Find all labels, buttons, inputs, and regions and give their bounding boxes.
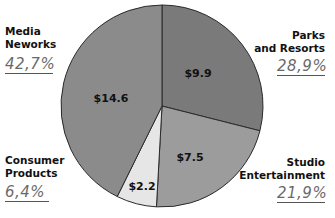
slice-value-studio: $7.5: [176, 151, 203, 164]
pct-studio-entertainment: 21,9%: [277, 185, 325, 203]
label-parks-resorts: Parks and Resorts: [254, 29, 325, 55]
label-media-line2: Neworks: [5, 38, 56, 51]
slice-value-consumer: $2.2: [128, 180, 155, 193]
label-consumer-products: Consumer Products: [5, 154, 64, 180]
pct-consumer-products: 6,4%: [5, 184, 49, 202]
label-media-line1: Media: [5, 25, 56, 38]
slice-value-media: $14.6: [94, 92, 129, 105]
label-consumer-line1: Consumer: [5, 154, 64, 167]
label-studio-line2: Entertainment: [239, 169, 325, 182]
label-studio-entertainment: Studio Entertainment: [239, 156, 325, 182]
pct-parks-resorts: 28,9%: [277, 58, 325, 76]
slice-value-parks: $9.9: [184, 67, 211, 80]
pie-slices: [61, 5, 263, 207]
label-media-networks: Media Neworks: [5, 25, 56, 51]
label-studio-line1: Studio: [239, 156, 325, 169]
pct-media-networks: 42,7%: [5, 56, 53, 74]
label-parks-line1: Parks: [254, 29, 325, 42]
label-consumer-line2: Products: [5, 167, 64, 180]
label-parks-line2: and Resorts: [254, 42, 325, 55]
